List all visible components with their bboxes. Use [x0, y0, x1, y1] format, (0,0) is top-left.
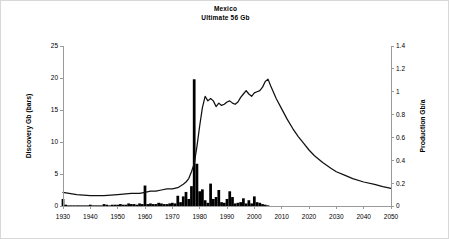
discovery-bar	[201, 189, 204, 206]
y-tick-label-right: 0.4	[396, 157, 405, 164]
x-tick-label: 1940	[83, 213, 98, 220]
discovery-bar	[190, 186, 193, 206]
y-tick-label-right: 0.8	[396, 111, 405, 118]
y-tick-label-right: 1	[396, 88, 400, 95]
discovery-bar	[198, 191, 201, 206]
discovery-bar	[212, 199, 215, 206]
y-tick-label-right: 0	[396, 202, 400, 209]
chart-frame: Mexico Ultimate 56 Gb 193019401950196019…	[0, 0, 449, 239]
x-tick-label: 2040	[356, 213, 371, 220]
chart-svg: 1930194019501960197019801990200020102020…	[1, 1, 449, 239]
x-tick-label: 1980	[192, 213, 207, 220]
discovery-bar	[215, 197, 218, 206]
x-tick-label: 1950	[110, 213, 125, 220]
discovery-bar	[204, 200, 207, 206]
discovery-bar	[179, 202, 182, 206]
discovery-bar	[256, 202, 259, 206]
discovery-bar	[220, 202, 223, 206]
y-axis-left-title: Discovery Gb (bars)	[25, 94, 33, 159]
plot-area: 1930194019501960197019801990200020102020…	[1, 1, 449, 239]
y-tick-label-left: 15	[51, 106, 59, 113]
discovery-bar	[228, 191, 231, 206]
discovery-bar	[196, 164, 199, 206]
discovery-bar	[226, 199, 229, 206]
x-tick-label: 2050	[384, 213, 399, 220]
discovery-bar	[248, 200, 251, 206]
x-tick-label: 1960	[138, 213, 153, 220]
y-tick-label-left: 10	[51, 138, 59, 145]
x-tick-label: 2030	[329, 213, 344, 220]
y-tick-label-left: 0	[54, 202, 58, 209]
discovery-bar	[187, 199, 190, 206]
y-tick-label-right: 0.6	[396, 134, 405, 141]
x-tick-label: 2020	[302, 213, 317, 220]
discovery-bar	[231, 197, 234, 206]
y-tick-label-right: 1.4	[396, 42, 405, 49]
discovery-bar	[253, 196, 256, 206]
discovery-bar	[193, 79, 196, 206]
y-tick-label-left: 5	[54, 170, 58, 177]
x-tick-label: 1930	[56, 213, 71, 220]
discovery-bar	[217, 190, 220, 206]
x-tick-label: 2010	[274, 213, 289, 220]
y-tick-label-left: 20	[51, 74, 59, 81]
y-axis-right-title: Production Gb/a	[419, 99, 426, 152]
axis-labels-group: 1930194019501960197019801990200020102020…	[25, 42, 426, 220]
discovery-bar	[242, 198, 245, 206]
discovery-bar	[182, 196, 185, 206]
y-tick-label-right: 1.2	[396, 65, 405, 72]
discovery-bar	[209, 184, 212, 206]
x-tick-label: 1970	[165, 213, 180, 220]
axes-group	[60, 46, 394, 209]
y-tick-label-right: 0.2	[396, 180, 405, 187]
discovery-bar	[176, 196, 179, 206]
discovery-bar	[144, 186, 147, 206]
y-tick-label-left: 25	[51, 42, 59, 49]
discovery-bar	[239, 202, 242, 206]
production-line-group	[63, 79, 391, 196]
discovery-bar	[185, 192, 188, 206]
x-tick-label: 1990	[220, 213, 235, 220]
x-tick-label: 2000	[247, 213, 262, 220]
bars-group	[62, 79, 270, 206]
production-line	[63, 79, 391, 196]
